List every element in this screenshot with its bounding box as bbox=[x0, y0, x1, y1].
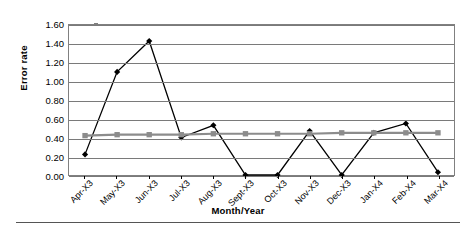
series-layer bbox=[69, 25, 454, 175]
data-point-square bbox=[243, 131, 248, 136]
data-point-square bbox=[339, 130, 344, 135]
x-axis-tick-label: Jun-X3 bbox=[132, 178, 159, 205]
gridline bbox=[69, 101, 454, 102]
x-axis-tick-mark bbox=[439, 176, 440, 179]
plot-area bbox=[68, 24, 455, 176]
data-point-square bbox=[211, 131, 216, 136]
x-axis-tick-label: Dec-X3 bbox=[325, 178, 353, 206]
x-axis-tick-mark bbox=[116, 176, 117, 179]
data-point-square bbox=[114, 132, 119, 137]
x-axis-tick-mark bbox=[149, 176, 150, 179]
x-axis-tick-label: Aug-X3 bbox=[196, 178, 224, 206]
y-axis-tick-label: 0.80 bbox=[46, 95, 65, 106]
x-axis-tick-mark bbox=[278, 176, 279, 179]
x-axis-tick-mark bbox=[342, 176, 343, 179]
footer-divider bbox=[16, 222, 460, 223]
x-axis-tick-label: Nov-X3 bbox=[293, 178, 321, 206]
data-point-square bbox=[435, 130, 440, 135]
gridline bbox=[69, 139, 454, 140]
series-line bbox=[85, 133, 438, 136]
gridline bbox=[69, 176, 454, 177]
data-point-square bbox=[307, 131, 312, 136]
x-axis-tick-mark bbox=[181, 176, 182, 179]
gridline bbox=[69, 44, 454, 45]
data-point-square bbox=[403, 130, 408, 135]
x-axis-tick-mark bbox=[407, 176, 408, 179]
x-axis-tick-mark bbox=[374, 176, 375, 179]
x-axis-tick-mark bbox=[310, 176, 311, 179]
x-axis-title: Month/Year bbox=[0, 205, 476, 216]
data-point-diamond bbox=[210, 122, 216, 128]
gridline bbox=[69, 158, 454, 159]
x-axis-tick-label: Mar-X4 bbox=[422, 178, 450, 206]
y-axis-tick-label: 0.00 bbox=[46, 171, 65, 182]
data-point-square bbox=[147, 132, 152, 137]
x-axis-tick-label: Feb-X4 bbox=[390, 178, 418, 206]
x-axis-tick-label: May-X3 bbox=[98, 178, 127, 207]
gridline bbox=[69, 63, 454, 64]
y-axis-tick-label: 1.00 bbox=[46, 76, 65, 87]
y-axis-tick-label: 0.60 bbox=[46, 114, 65, 125]
x-axis-tick-mark bbox=[245, 176, 246, 179]
x-axis-tick-mark bbox=[84, 176, 85, 179]
y-axis-tick-labels: 0.000.200.400.600.801.001.201.401.60 bbox=[30, 24, 64, 176]
y-axis-tick-label: 0.40 bbox=[46, 133, 65, 144]
x-axis-tick-label: Sept-X3 bbox=[226, 178, 256, 208]
data-point-diamond bbox=[82, 151, 88, 157]
gridline bbox=[69, 25, 454, 26]
x-axis-tick-label: Jan-X4 bbox=[358, 178, 385, 205]
y-axis-tick-label: 0.20 bbox=[46, 152, 65, 163]
x-axis-tick-label: Oct-X3 bbox=[262, 178, 289, 205]
data-point-square bbox=[82, 133, 87, 138]
data-point-square bbox=[179, 132, 184, 137]
series-line bbox=[85, 41, 438, 175]
y-axis-tick-label: 1.40 bbox=[46, 38, 65, 49]
line-chart: Error rate 0.000.200.400.600.801.001.201… bbox=[0, 0, 476, 230]
y-axis-tick-label: 1.60 bbox=[46, 19, 65, 30]
x-axis-tick-label: Jul-X3 bbox=[167, 178, 192, 203]
gridline bbox=[69, 82, 454, 83]
x-axis-tick-label: Apr-X3 bbox=[68, 178, 95, 205]
data-point-square bbox=[275, 131, 280, 136]
x-axis-tick-mark bbox=[213, 176, 214, 179]
data-point-square bbox=[371, 130, 376, 135]
y-axis-tick-label: 1.20 bbox=[46, 57, 65, 68]
gridline bbox=[69, 120, 454, 121]
